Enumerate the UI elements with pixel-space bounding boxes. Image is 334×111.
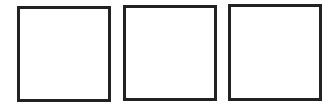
empty-square-2 xyxy=(123,5,217,101)
empty-square-1 xyxy=(17,6,111,102)
empty-square-3 xyxy=(228,4,322,101)
